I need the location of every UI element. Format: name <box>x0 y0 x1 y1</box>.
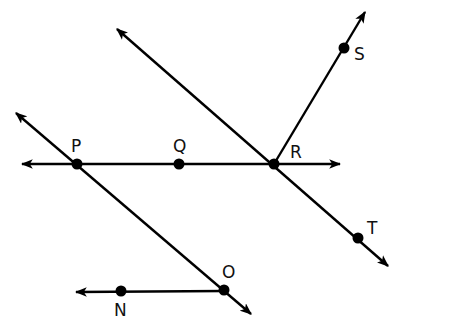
label-q: Q <box>173 136 186 156</box>
point-n <box>116 286 127 297</box>
point-q <box>174 159 185 170</box>
labels-layer: PQRSTON <box>71 44 378 320</box>
line-through-R-T <box>117 29 388 266</box>
points-layer <box>72 43 364 297</box>
point-p <box>72 159 83 170</box>
point-t <box>353 233 364 244</box>
ray-ON <box>76 291 224 292</box>
geometry-diagram: PQRSTON <box>0 0 453 327</box>
label-p: P <box>71 136 81 156</box>
point-r <box>269 159 280 170</box>
line-through-P-O <box>16 113 251 314</box>
label-t: T <box>366 218 378 238</box>
point-o <box>219 285 230 296</box>
label-s: S <box>354 44 365 64</box>
label-o: O <box>222 262 235 282</box>
ray-RS <box>274 12 365 164</box>
point-s <box>339 43 350 54</box>
label-r: R <box>290 142 302 162</box>
label-n: N <box>114 300 127 320</box>
